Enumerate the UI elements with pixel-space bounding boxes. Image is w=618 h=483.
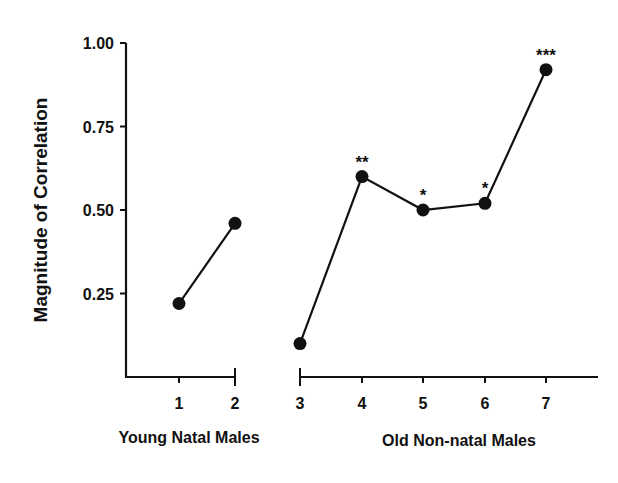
significance-marker: *	[482, 179, 489, 198]
data-point	[417, 204, 430, 217]
y-tick-label: 0.50	[83, 202, 114, 219]
group-labels: Young Natal MalesOld Non-natal Males	[118, 429, 536, 449]
data-point	[540, 63, 553, 76]
group-label-old-nonnatal: Old Non-natal Males	[382, 432, 536, 449]
data-point	[173, 297, 186, 310]
significance-marker: ***	[536, 46, 556, 65]
group-label-young-natal: Young Natal Males	[118, 429, 259, 446]
y-tick-label: 0.75	[83, 119, 114, 136]
x-tick-label: 6	[481, 395, 490, 412]
x-tick-label: 1	[175, 395, 184, 412]
x-tick-label: 7	[542, 395, 551, 412]
data-points: *******	[173, 46, 557, 350]
y-tick-label: 1.00	[83, 35, 114, 52]
x-tick-label: 2	[231, 395, 240, 412]
y-axis: 1.000.750.500.25	[83, 35, 126, 377]
x-axis: 1234567	[125, 368, 598, 412]
series-line	[179, 223, 235, 303]
x-tick-label: 4	[358, 395, 367, 412]
data-point	[229, 217, 242, 230]
x-tick-label: 3	[296, 395, 305, 412]
x-tick-label: 5	[419, 395, 428, 412]
data-point	[356, 170, 369, 183]
data-lines	[179, 70, 546, 344]
data-point	[479, 197, 492, 210]
correlation-chart: Magnitude of Correlation 1.000.750.500.2…	[0, 0, 618, 483]
y-axis-label: Magnitude of Correlation	[30, 98, 51, 323]
data-point	[294, 337, 307, 350]
y-tick-label: 0.25	[83, 286, 114, 303]
significance-marker: *	[420, 186, 427, 205]
significance-marker: **	[355, 153, 369, 172]
